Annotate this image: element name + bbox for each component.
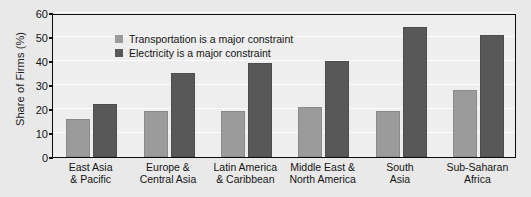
x-category-label: Middle East &North America [284, 161, 361, 185]
x-category-label-line: Latin America [207, 161, 284, 173]
x-category-label: Latin America& Caribbean [207, 161, 284, 185]
x-axis-category-labels: East Asia& PacificEurope &Central AsiaLa… [52, 161, 516, 195]
x-category-label-line: & Pacific [52, 173, 129, 185]
legend-item: Transportation is a major constraint [115, 33, 293, 46]
bar-chart-figure: Share of Firms (%) 0102030405060 Transpo… [0, 0, 531, 197]
legend-item-label: Electricity is a major constraint [129, 47, 271, 60]
legend-swatch-icon [115, 49, 123, 57]
y-tick-label-50: 50 [22, 32, 48, 44]
x-category-label-line: North America [284, 173, 361, 185]
y-tick-label-0: 0 [22, 152, 48, 164]
bar [66, 119, 90, 157]
bar [248, 63, 272, 157]
y-tick-label-20: 20 [22, 104, 48, 116]
x-category-label-line: South [361, 161, 438, 173]
bar [376, 111, 400, 157]
bar [221, 111, 245, 157]
bar [325, 61, 349, 157]
bar [453, 90, 477, 157]
legend-item-label: Transportation is a major constraint [129, 33, 293, 46]
x-category-label-line: Africa [439, 173, 516, 185]
x-category-label: Europe &Central Asia [129, 161, 206, 185]
legend-item: Electricity is a major constraint [115, 47, 293, 60]
x-category-label: SouthAsia [361, 161, 438, 185]
y-tick-label-10: 10 [22, 128, 48, 140]
y-tick-label-60: 60 [22, 8, 48, 20]
y-tick-label-40: 40 [22, 56, 48, 68]
x-category-label-line: Europe & [129, 161, 206, 173]
x-category-label: Sub-SaharanAfrica [439, 161, 516, 185]
bar [171, 73, 195, 157]
bar [93, 104, 117, 157]
x-category-label-line: & Caribbean [207, 173, 284, 185]
bar [144, 111, 168, 157]
x-category-label-line: East Asia [52, 161, 129, 173]
x-category-label-line: Asia [361, 173, 438, 185]
x-category-label: East Asia& Pacific [52, 161, 129, 185]
x-category-label-line: Middle East & [284, 161, 361, 173]
plot-area: Transportation is a major constraintElec… [52, 14, 516, 158]
y-tick-label-30: 30 [22, 80, 48, 92]
x-category-label-line: Sub-Saharan [439, 161, 516, 173]
bar [480, 35, 504, 157]
bar [403, 27, 427, 157]
x-category-label-line: Central Asia [129, 173, 206, 185]
bar [298, 107, 322, 157]
gridline-60 [53, 12, 515, 13]
legend-swatch-icon [115, 35, 123, 43]
chart-legend: Transportation is a major constraintElec… [115, 33, 293, 60]
